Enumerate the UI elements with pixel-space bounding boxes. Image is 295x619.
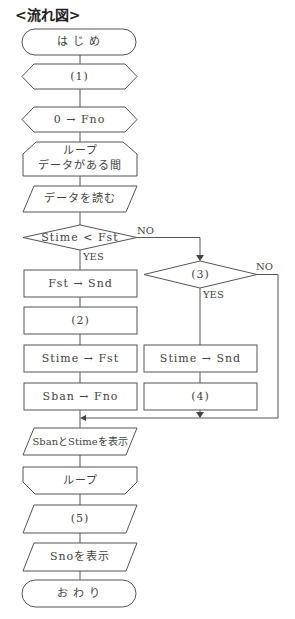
end-label: お わ り bbox=[22, 580, 136, 607]
init-label: 0 → Fno bbox=[22, 107, 137, 132]
stime-snd-label: Stime → Snd bbox=[144, 345, 257, 372]
step2-label: (2) bbox=[24, 307, 137, 334]
cond3-yes-label: YES bbox=[203, 289, 224, 300]
cond3-no-label: NO bbox=[256, 261, 273, 272]
cond1-yes-label: YES bbox=[83, 251, 104, 262]
sban-fno-label: Sban → Fno bbox=[24, 383, 137, 410]
cond1-no-label: NO bbox=[137, 225, 154, 236]
step5-label: (5) bbox=[23, 505, 137, 533]
loop-start-label-1: ループ bbox=[23, 143, 137, 159]
fst-snd-label: Fst → Snd bbox=[24, 270, 137, 297]
start-label: は じ め bbox=[22, 29, 136, 55]
step4-label: (4) bbox=[144, 383, 257, 410]
display1-label: SbanとStimeを表示 bbox=[23, 428, 137, 455]
stime-fst-label: Stime → Fst bbox=[24, 345, 137, 372]
cond3-label: (3) bbox=[144, 261, 257, 288]
loop-end-label: ループ bbox=[23, 467, 137, 494]
read-label: データを読む bbox=[23, 186, 137, 212]
cond1-label: Stime < Fst bbox=[23, 225, 137, 250]
step1-label: (1) bbox=[22, 64, 137, 89]
loop-start-label-2: データがある間 bbox=[23, 158, 137, 174]
display2-label: Snoを表示 bbox=[23, 543, 137, 571]
